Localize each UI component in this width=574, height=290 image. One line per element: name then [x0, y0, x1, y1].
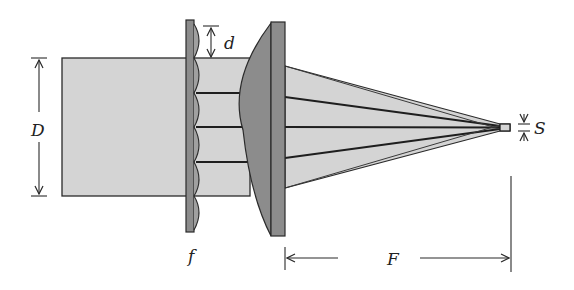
- beam-diameter-label: D: [30, 120, 45, 140]
- focusing-lens: [239, 22, 285, 236]
- spot-size-label: S: [534, 118, 546, 138]
- lenslet-pitch-dimension: [203, 26, 219, 57]
- optical-diagram: D d f F S: [0, 0, 574, 290]
- lenslet-pitch-label: d: [224, 33, 235, 53]
- focal-spot: [500, 124, 510, 131]
- focused-cone: [285, 66, 510, 188]
- spot-size-dimension: [518, 114, 530, 141]
- lenslet-focal-length-label: f: [186, 246, 197, 266]
- focal-length-label: F: [386, 249, 400, 269]
